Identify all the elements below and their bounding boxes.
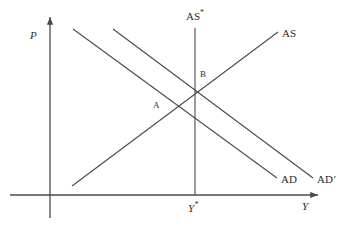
ad-prime-suffix: ′ bbox=[333, 173, 335, 185]
equilibrium-point-a-label: A bbox=[153, 101, 160, 110]
aggregate-demand-shifted-curve-label: AD′ bbox=[317, 174, 335, 185]
short-run-aggregate-supply-curve-line bbox=[72, 32, 278, 186]
aggregate-demand-curve-line bbox=[73, 29, 277, 178]
potential-output-tick-label: Y* bbox=[188, 201, 198, 214]
as-star-suffix: * bbox=[200, 8, 204, 17]
long-run-aggregate-supply-curve-label: AS* bbox=[186, 9, 204, 22]
ad-prime-base-text: AD bbox=[317, 173, 333, 185]
y-star-suffix: * bbox=[194, 200, 198, 209]
aggregate-demand-curve-label: AD bbox=[281, 174, 297, 185]
short-run-aggregate-supply-curve-label: AS bbox=[282, 28, 296, 39]
diagram-canvas bbox=[0, 0, 360, 228]
price-level-axis-label: P bbox=[30, 30, 37, 41]
aggregate-demand-shifted-curve-line bbox=[113, 29, 313, 178]
equilibrium-point-b-label: B bbox=[200, 70, 206, 79]
output-axis-label: Y bbox=[302, 201, 308, 212]
as-star-base-text: AS bbox=[186, 10, 200, 22]
as-ad-diagram: P Y AD AD′ AS AS* A B Y* bbox=[0, 0, 360, 228]
